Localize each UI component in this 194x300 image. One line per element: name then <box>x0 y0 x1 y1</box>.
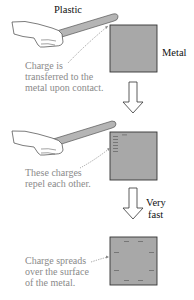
very-fast-label-line-1: Very <box>146 197 166 209</box>
very-fast-label-line-2: fast <box>148 209 163 221</box>
stage2-leader-arrow <box>80 148 110 168</box>
stage2-hand-and-rod <box>12 121 116 155</box>
down-arrow-2 <box>123 188 143 219</box>
down-arrow-1 <box>123 82 143 113</box>
hand-icon <box>12 131 63 155</box>
stage1-caption-line-3: metal upon contact. <box>25 82 104 94</box>
stage3-leader-arrow <box>91 257 108 262</box>
stage2-caption-line-2: repel each other. <box>25 178 91 190</box>
hand-icon <box>12 21 63 47</box>
stage3-metal-block <box>110 237 157 285</box>
stage1-caption-line-1: Charge is <box>25 60 63 72</box>
stage3-caption-line-3: of the metal. <box>25 277 75 289</box>
stage3-caption-line-2: over the surface <box>25 266 89 278</box>
stage1-metal-block <box>110 25 157 72</box>
stage1-hand-and-rod <box>12 14 118 47</box>
stage3-caption-line-1: Charge spreads <box>25 255 86 267</box>
stage1-caption-line-2: transferred to the <box>25 71 93 83</box>
metal-label: Metal <box>162 47 187 59</box>
plastic-label: Plastic <box>54 4 82 16</box>
stage2-caption-line-1: These charges <box>25 167 82 179</box>
charge-transfer-diagram: Plastic Metal Charge is transferred to t… <box>0 0 194 300</box>
